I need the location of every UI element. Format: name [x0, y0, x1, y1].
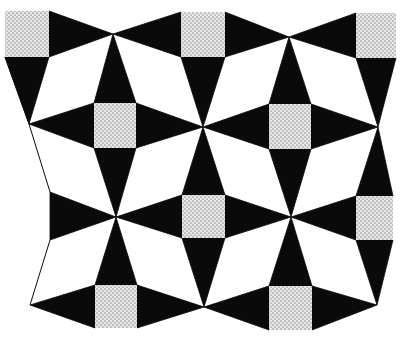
stippled-square	[269, 104, 311, 149]
black-triangle	[269, 217, 312, 286]
black-triangle	[356, 240, 393, 305]
black-triangle	[269, 37, 311, 104]
black-triangle	[182, 127, 225, 195]
black-triangle	[289, 13, 356, 58]
stippled-square	[94, 103, 136, 148]
black-triangle	[137, 285, 204, 328]
black-triangle	[311, 104, 378, 149]
black-triangle	[181, 57, 225, 127]
black-triangle	[113, 12, 181, 57]
black-triangle	[312, 286, 377, 330]
black-triangle	[30, 285, 95, 328]
stippled-square	[181, 12, 225, 57]
black-triangle	[182, 238, 225, 307]
black-triangle	[49, 11, 113, 57]
black-triangle	[94, 34, 136, 103]
tessellation-figure	[0, 0, 410, 340]
stippled-square	[182, 195, 225, 238]
black-triangle	[356, 58, 396, 127]
black-triangle	[269, 149, 311, 217]
black-triangle	[291, 196, 356, 240]
black-triangle	[225, 12, 289, 57]
stippled-square	[95, 285, 137, 328]
stippled-square	[356, 196, 393, 240]
black-triangle	[356, 127, 393, 196]
black-triangle	[204, 286, 269, 330]
black-triangle	[116, 195, 182, 238]
stippled-square	[269, 286, 312, 330]
stippled-square	[5, 11, 49, 57]
black-triangle	[5, 57, 49, 124]
black-triangle	[50, 192, 116, 240]
black-kite-triangles	[5, 11, 396, 330]
black-triangle	[29, 103, 94, 148]
black-triangle	[136, 103, 203, 148]
black-triangle	[225, 195, 291, 238]
black-triangle	[203, 104, 269, 149]
black-triangle	[95, 217, 137, 285]
stippled-square	[356, 13, 396, 58]
black-triangle	[94, 148, 136, 217]
outline-edge	[30, 240, 50, 305]
